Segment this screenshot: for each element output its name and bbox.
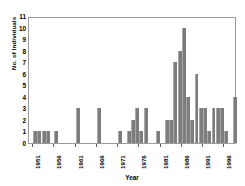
plot-area [28,17,236,144]
y-tick-7: 7 [12,60,26,66]
x-tick-mark-1991 [202,144,203,147]
x-tick-1956: 1956 [56,155,62,169]
x-tick-mark-1951 [32,144,33,147]
x-tick-1971: 1971 [120,155,126,169]
bar-1998 [233,97,237,143]
x-tick-mark-1976 [138,144,139,147]
y-tick-5: 5 [12,83,26,89]
y-tick-0: 0 [12,141,26,147]
y-axis-tick-labels: 01234567891011 [12,14,26,145]
y-tick-4: 4 [12,95,26,101]
x-axis-tick-labels: 1951195619611966197119761981198619911996 [28,148,236,172]
bar-1980 [156,131,160,143]
x-axis-title: Year [28,174,236,181]
bar-1966 [97,108,101,143]
x-tick-1976: 1976 [141,155,147,169]
bar-1954 [46,131,50,143]
x-tick-1996: 1996 [226,155,232,169]
y-tick-10: 10 [12,25,26,31]
y-tick-2: 2 [12,118,26,124]
y-tick-9: 9 [12,37,26,43]
x-tick-mark-1971 [117,144,118,147]
bar-1996 [224,131,228,143]
bar-1977 [144,108,148,143]
x-tick-mark-1961 [75,144,76,147]
bar-series [29,18,235,143]
x-tick-mark-1981 [160,144,161,147]
x-tick-mark-1956 [53,144,54,147]
y-tick-6: 6 [12,72,26,78]
y-tick-3: 3 [12,106,26,112]
x-tick-1991: 1991 [205,155,211,169]
y-tick-8: 8 [12,48,26,54]
x-tick-mark-1966 [96,144,97,147]
bar-1961 [76,108,80,143]
x-tick-1986: 1986 [184,155,190,169]
y-tick-11: 11 [12,14,26,20]
bar-chart: No. of Individuals 01234567891011 195119… [0,0,245,186]
x-tick-1966: 1966 [99,155,105,169]
x-tick-1961: 1961 [78,155,84,169]
bar-1956 [54,131,58,143]
x-tick-mark-1986 [181,144,182,147]
x-tick-mark-1996 [223,144,224,147]
x-tick-1951: 1951 [35,155,41,169]
y-tick-1: 1 [12,129,26,135]
bar-1971 [118,131,122,143]
x-tick-1981: 1981 [163,155,169,169]
